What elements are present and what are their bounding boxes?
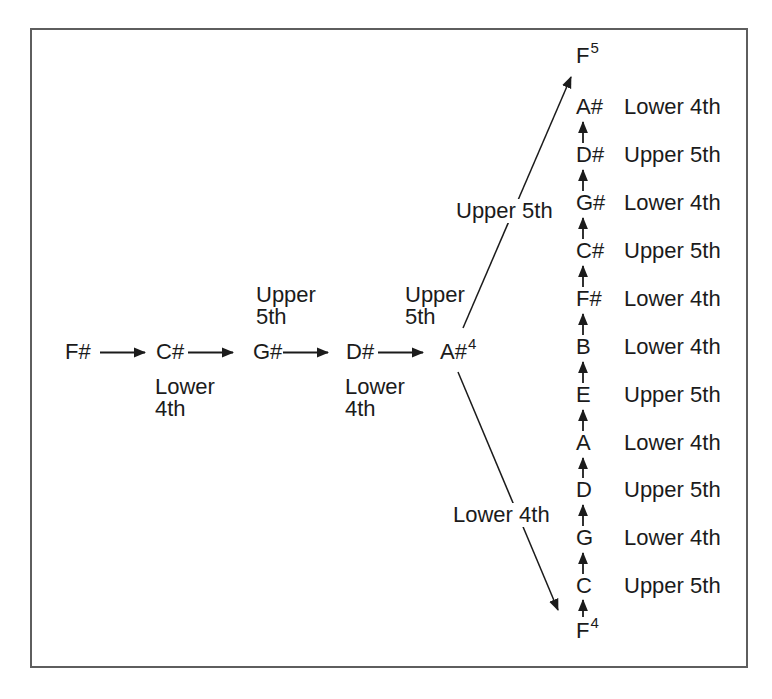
interval-label: Lower 4th <box>624 525 721 550</box>
column-note: D <box>576 477 624 503</box>
chain-step-label-upper5th-2: Upper 5th <box>405 284 465 328</box>
note-label: A# <box>576 94 603 119</box>
note-label: E <box>576 382 591 407</box>
column-note: D# <box>576 142 624 168</box>
column-note: F# <box>576 286 624 312</box>
column-row-e: EUpper 5th <box>576 382 721 408</box>
diagonal-up-label: Upper 5th <box>453 199 556 223</box>
chain-note-csharp: C# <box>156 339 185 365</box>
note-label: G# <box>576 190 605 215</box>
column-row-g: GLower 4th <box>576 525 721 551</box>
column-row-d: DUpper 5th <box>576 477 721 503</box>
column-row-c: CUpper 5th <box>576 573 721 599</box>
chain-step-label-lower4th-1: Lower 4th <box>155 376 215 420</box>
column-note: E <box>576 382 624 408</box>
interval-label: Lower 4th <box>624 430 721 455</box>
column-row-gsharp: G#Lower 4th <box>576 190 721 216</box>
note-label: C <box>576 573 592 598</box>
note-label: G <box>576 525 593 550</box>
note-label: D <box>576 477 592 502</box>
column-row-fsharp: F#Lower 4th <box>576 286 721 312</box>
step-label-line: Lower <box>155 376 215 398</box>
column-note: B <box>576 334 624 360</box>
column-note: F5 <box>576 43 624 69</box>
diagonal-down-arrow <box>458 372 558 610</box>
chain-note-dsharp: D# <box>346 339 375 365</box>
column-note: G# <box>576 190 624 216</box>
step-label-line: Upper <box>405 284 465 306</box>
note-label: C# <box>576 238 604 263</box>
interval-label: Upper 5th <box>624 382 721 407</box>
column-note: F4 <box>576 618 624 644</box>
note-superscript: 4 <box>468 335 476 352</box>
column-row-f4: F4 <box>576 618 624 644</box>
column-note: A# <box>576 94 624 120</box>
interval-label: Upper 5th <box>624 477 721 502</box>
column-row-asharp: A#Lower 4th <box>576 94 721 120</box>
note-label: F <box>576 43 589 68</box>
chain-note-asharp4: A#4 <box>440 339 476 365</box>
chain-note-gsharp: G# <box>253 339 283 365</box>
column-row-dsharp: D#Upper 5th <box>576 142 721 168</box>
interval-label: Upper 5th <box>624 573 721 598</box>
step-label-line: 4th <box>155 398 215 420</box>
column-note: C# <box>576 238 624 264</box>
interval-label: Lower 4th <box>624 94 721 119</box>
column-row-a: ALower 4th <box>576 430 721 456</box>
chain-step-label-upper5th-1: Upper 5th <box>256 284 316 328</box>
step-label-line: Upper <box>256 284 316 306</box>
note-superscript: 5 <box>590 39 598 56</box>
interval-label: Lower 4th <box>624 334 721 359</box>
diagonal-down-label: Lower 4th <box>450 503 553 527</box>
note-label: A# <box>440 339 467 364</box>
step-label-line: 5th <box>405 306 465 328</box>
interval-label: Lower 4th <box>624 286 721 311</box>
figure-canvas: F# C# G# D# A#4 Upper 5th Upper 5th Lowe… <box>0 0 772 699</box>
column-row-csharp: C#Upper 5th <box>576 238 721 264</box>
column-note: C <box>576 573 624 599</box>
column-note: A <box>576 430 624 456</box>
chain-note-fsharp: F# <box>65 339 92 365</box>
step-label-line: Lower <box>345 376 405 398</box>
column-row-f5: F5 <box>576 43 624 69</box>
note-label: A <box>576 430 591 455</box>
chain-step-label-lower4th-2: Lower 4th <box>345 376 405 420</box>
step-label-line: 4th <box>345 398 405 420</box>
note-label: D# <box>576 142 604 167</box>
note-label: F# <box>65 339 91 364</box>
interval-label: Upper 5th <box>624 238 721 263</box>
step-label-line: 5th <box>256 306 316 328</box>
note-label: G# <box>253 339 282 364</box>
column-note: G <box>576 525 624 551</box>
interval-label: Lower 4th <box>624 190 721 215</box>
column-row-b: BLower 4th <box>576 334 721 360</box>
interval-label: Upper 5th <box>624 142 721 167</box>
note-label: D# <box>346 339 374 364</box>
note-label: F <box>576 618 589 643</box>
note-label: B <box>576 334 591 359</box>
note-label: F# <box>576 286 602 311</box>
note-label: C# <box>156 339 184 364</box>
note-superscript: 4 <box>590 614 598 631</box>
